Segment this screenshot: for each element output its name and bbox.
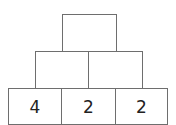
- pyramid-middle-cell-right: [88, 51, 143, 89]
- pyramid-bottom-cell-middle: 2: [61, 88, 116, 125]
- pyramid-bottom-cell-left: 4: [8, 88, 62, 125]
- pyramid-top-cell: [62, 14, 117, 52]
- pyramid-middle-cell-left: [35, 51, 89, 89]
- pyramid-bottom-cell-right: 2: [115, 88, 168, 125]
